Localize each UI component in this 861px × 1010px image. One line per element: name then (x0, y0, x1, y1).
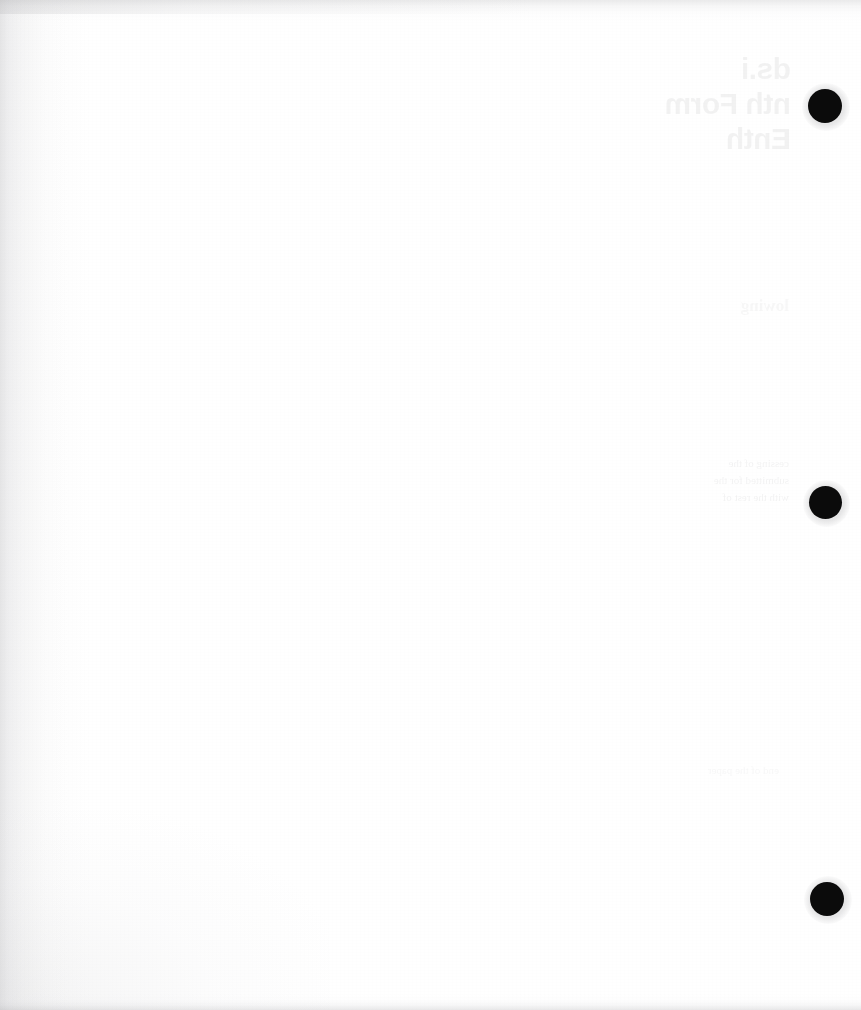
bottom-left-corner-wash (0, 810, 330, 1010)
registration-mark-middle (809, 486, 842, 519)
bottom-edge-smudge (0, 994, 861, 1010)
paper-grain (0, 0, 861, 1010)
show-through-heading: ds.i nth Form Enth (665, 52, 791, 156)
show-through-trailing-line: end of the paper (499, 762, 779, 779)
show-through-subline: lowing (741, 295, 789, 317)
registration-mark-top (808, 89, 842, 123)
top-edge-smudge (0, 0, 861, 22)
scanned-page: ds.i nth Form Enth lowing cessing of the… (0, 0, 861, 1010)
binding-gutter-shadow (0, 0, 70, 1010)
registration-mark-bottom (810, 882, 844, 916)
show-through-paragraph: cessing of the submitted for the with th… (489, 455, 789, 506)
show-through-ink-layer: ds.i nth Form Enth lowing cessing of the… (0, 0, 861, 1010)
